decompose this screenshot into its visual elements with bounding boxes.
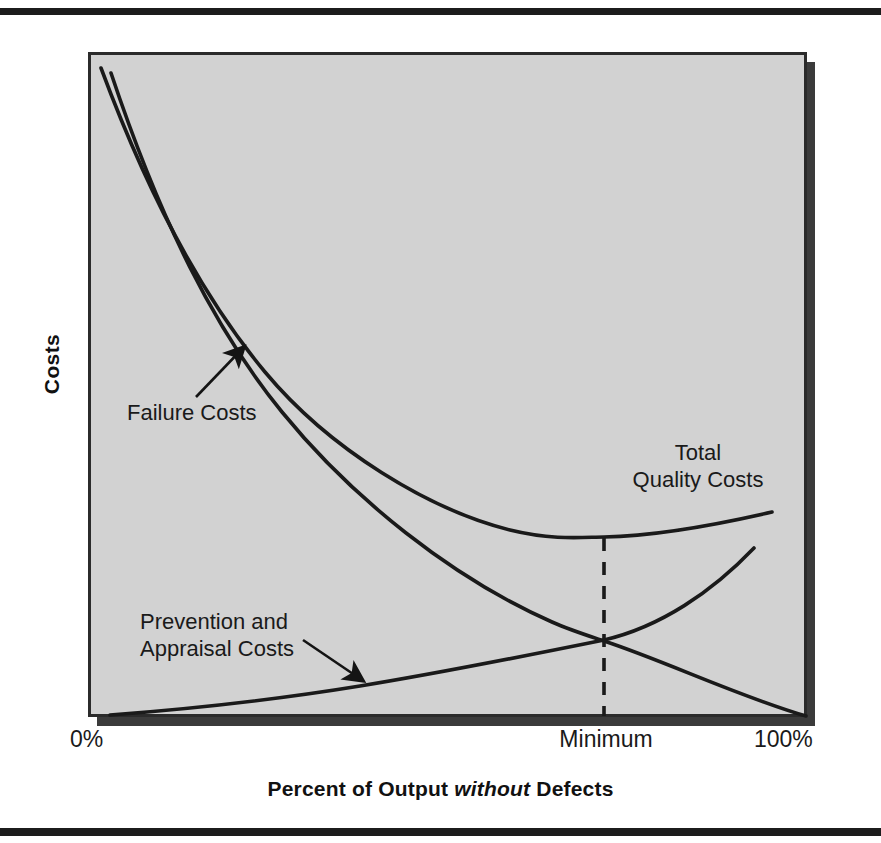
series-label-total-line1: Total bbox=[583, 440, 813, 467]
x-tick-label-100-percent: 100% bbox=[754, 726, 813, 753]
x-axis-title: Percent of Output without Defects bbox=[0, 777, 881, 801]
series-label-failure-costs: Failure Costs bbox=[127, 400, 257, 427]
series-label-prevention-line1: Prevention and bbox=[140, 609, 294, 636]
series-label-failure-line1: Failure Costs bbox=[127, 400, 257, 427]
series-label-total-quality-costs: Total Quality Costs bbox=[583, 440, 813, 494]
series-label-total-line2: Quality Costs bbox=[583, 467, 813, 494]
x-tick-label-0-percent: 0% bbox=[70, 726, 103, 753]
x-tick-label-minimum: Minimum bbox=[541, 726, 671, 753]
series-label-prevention-appraisal-costs: Prevention and Appraisal Costs bbox=[140, 609, 294, 663]
x-axis-title-emphasis: without bbox=[454, 777, 530, 800]
series-label-prevention-line2: Appraisal Costs bbox=[140, 636, 294, 663]
x-axis-title-after: Defects bbox=[530, 777, 613, 800]
x-axis-title-before: Percent of Output bbox=[267, 777, 454, 800]
y-axis-title: Costs bbox=[40, 304, 64, 424]
quality-cost-figure: Costs Percent of Output without Defects … bbox=[0, 0, 881, 843]
